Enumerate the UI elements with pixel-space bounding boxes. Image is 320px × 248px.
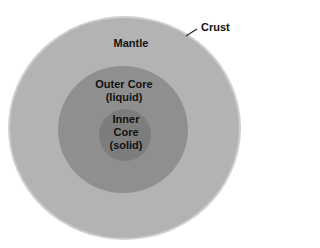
outer-core-name: Outer Core	[84, 78, 164, 91]
crust-label: Crust	[201, 21, 230, 34]
outer-core-label: Outer Core (liquid)	[84, 78, 164, 104]
inner-core-name-line1: Inner	[96, 113, 156, 126]
mantle-label: Mantle	[101, 37, 161, 50]
outer-core-state: (liquid)	[84, 91, 164, 104]
inner-core-state: (solid)	[96, 139, 156, 152]
inner-core-name-line2: Core	[96, 126, 156, 139]
inner-core-label: Inner Core (solid)	[96, 113, 156, 152]
